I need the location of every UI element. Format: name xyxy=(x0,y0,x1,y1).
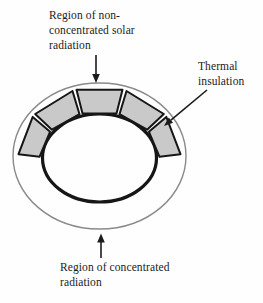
figure-canvas: Region of non- concentrated solar radiat… xyxy=(0,0,263,303)
label-line: Thermal xyxy=(198,59,244,74)
label-thermal-insulation: Thermal insulation xyxy=(198,59,244,89)
label-line: Region of non- xyxy=(49,8,135,23)
receiver-inner-ring xyxy=(43,114,157,202)
pointer-arrow-icon xyxy=(164,90,207,126)
label-non-concentrated-radiation: Region of non- concentrated solar radiat… xyxy=(49,8,135,53)
insulation-segments xyxy=(19,90,181,157)
label-line: insulation xyxy=(198,74,244,89)
label-line: radiation xyxy=(49,38,135,53)
up-arrow-icon xyxy=(97,234,105,259)
label-line: Region of concentrated xyxy=(60,260,170,275)
label-line: radiation xyxy=(60,275,170,290)
label-concentrated-radiation: Region of concentrated radiation xyxy=(60,260,170,290)
down-arrow-icon xyxy=(92,55,100,83)
label-line: concentrated solar xyxy=(49,23,135,38)
insulation-segment xyxy=(77,90,123,114)
